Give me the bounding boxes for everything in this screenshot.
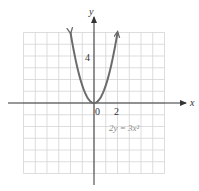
chart: x y 0 2 4 2y = 3x²	[0, 0, 199, 191]
x-tick-label-2: 2	[114, 106, 119, 117]
x-axis-label: x	[189, 97, 195, 108]
origin-label: 0	[95, 106, 100, 117]
equation-label: 2y = 3x²	[109, 123, 140, 133]
y-tick-label-4: 4	[85, 52, 90, 63]
y-axis-label: y	[88, 6, 94, 17]
